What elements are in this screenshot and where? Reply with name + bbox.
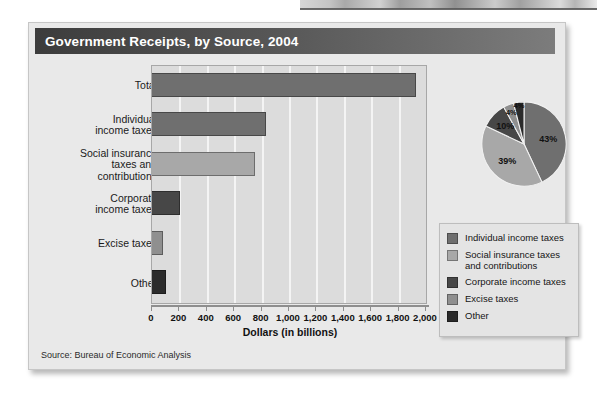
legend-item[interactable]: Social insurance taxes and contributions <box>447 249 572 271</box>
x-axis-line <box>151 305 429 307</box>
legend-swatch <box>447 277 458 288</box>
legend-label: Other <box>465 310 489 321</box>
x-tick-label: 200 <box>170 312 186 323</box>
bar-category-label: Corporate income taxes <box>7 193 157 216</box>
gridline <box>344 66 346 303</box>
bar-category-label: Total <box>7 80 157 92</box>
scan-artifact-line <box>300 8 597 10</box>
x-tick-label: 2,000 <box>413 312 437 323</box>
x-tick-label: 1,000 <box>276 312 300 323</box>
x-tick <box>315 307 316 311</box>
x-tick-label: 1,800 <box>386 312 410 323</box>
gridline <box>234 66 236 303</box>
x-tick-label: 600 <box>225 312 241 323</box>
bar <box>152 270 166 294</box>
x-tick <box>370 307 371 311</box>
x-tick-label: 1,200 <box>304 312 328 323</box>
bar-plot-area <box>151 65 427 304</box>
gridline <box>316 66 318 303</box>
legend-item[interactable]: Other <box>447 310 572 322</box>
bar-category-label: Social insurance taxes and contributions <box>7 148 157 183</box>
x-tick-label: 800 <box>253 312 269 323</box>
legend-item[interactable]: Excise taxes <box>447 293 572 305</box>
legend-label: Individual income taxes <box>465 232 564 243</box>
x-tick-label: 1,600 <box>358 312 382 323</box>
legend-item[interactable]: Corporate income taxes <box>447 276 572 288</box>
pie-slice-label: 4% <box>514 100 525 109</box>
page-title: Government Receipts, by Source, 2004 <box>45 34 298 49</box>
legend-label: Corporate income taxes <box>465 276 566 287</box>
figure-card: Government Receipts, by Source, 2004 Tot… <box>28 22 566 370</box>
legend-item[interactable]: Individual income taxes <box>447 232 572 244</box>
pie-slice-label: 10% <box>496 121 514 131</box>
legend: Individual income taxesSocial insurance … <box>439 223 579 337</box>
x-tick <box>398 307 399 311</box>
x-tick <box>206 307 207 311</box>
gridline <box>262 66 264 303</box>
gridline <box>399 66 401 303</box>
pie-svg <box>481 101 567 187</box>
bar <box>152 112 266 136</box>
source-note: Source: Bureau of Economic Analysis <box>41 350 191 360</box>
legend-swatch <box>447 233 458 244</box>
legend-swatch <box>447 250 458 261</box>
bar <box>152 73 416 97</box>
gridline <box>371 66 373 303</box>
x-tick-label: 400 <box>198 312 214 323</box>
gridline <box>289 66 291 303</box>
x-tick <box>233 307 234 311</box>
x-tick <box>178 307 179 311</box>
legend-label: Excise taxes <box>465 293 518 304</box>
bar <box>152 191 180 215</box>
bar-chart: TotalIndividual income taxesSocial insur… <box>29 61 429 351</box>
gridline <box>207 66 209 303</box>
x-tick <box>288 307 289 311</box>
bar-category-label: Individual income taxes <box>7 114 157 137</box>
x-tick <box>151 307 152 311</box>
pie-slice-label: 43% <box>539 134 557 144</box>
x-tick <box>261 307 262 311</box>
x-tick <box>343 307 344 311</box>
gridline <box>179 66 181 303</box>
x-tick <box>425 307 426 311</box>
gridline <box>426 66 427 303</box>
x-tick-label: 0 <box>148 312 153 323</box>
pie-slice-label: 39% <box>498 156 516 166</box>
figure-title-bar: Government Receipts, by Source, 2004 <box>35 28 555 54</box>
bar <box>152 152 255 176</box>
x-tick-label: 1,400 <box>331 312 355 323</box>
legend-label: Social insurance taxes and contributions <box>465 249 560 271</box>
bar-category-label: Other <box>7 278 157 290</box>
bar-category-label: Excise taxes <box>7 238 157 250</box>
legend-swatch <box>447 294 458 305</box>
legend-swatch <box>447 311 458 322</box>
pie-chart: 43%39%10%4%4% <box>453 81 595 211</box>
x-axis-title: Dollars (in billions) <box>151 326 429 338</box>
bar <box>152 231 163 255</box>
